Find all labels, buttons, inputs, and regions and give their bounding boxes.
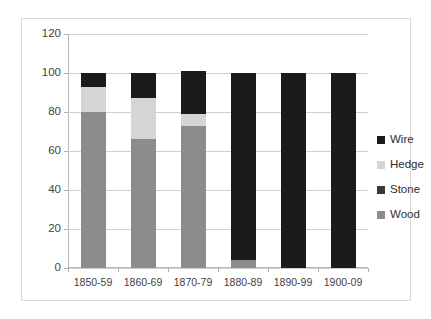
y-tick-mark (64, 190, 68, 191)
bar-segment-wood[interactable] (231, 260, 256, 268)
bar-stack[interactable] (281, 34, 306, 268)
y-gridline (68, 34, 368, 35)
x-axis-tick-label: 1890-99 (274, 277, 313, 288)
x-axis-tick-label: 1850-59 (74, 277, 113, 288)
legend-item-label: Wood (390, 209, 420, 221)
bar-segment-hedge[interactable] (181, 114, 206, 126)
y-tick-mark (64, 73, 68, 74)
bar-stack[interactable] (181, 34, 206, 268)
x-axis-tick-label: 1880-89 (224, 277, 263, 288)
y-gridline (68, 112, 368, 113)
bar-segment-wood[interactable] (181, 126, 206, 268)
legend-item-stone[interactable]: Stone (377, 177, 431, 202)
y-axis-tick-label: 60 (48, 145, 61, 157)
y-gridline (68, 151, 368, 152)
x-tick-mark (68, 268, 69, 272)
bar-segment-hedge[interactable] (81, 87, 106, 112)
x-tick-mark (318, 268, 319, 272)
legend-item-label: Stone (390, 184, 420, 196)
y-gridline (68, 190, 368, 191)
x-axis-tick-label: 1860-69 (124, 277, 163, 288)
plot-area: 0204060801001201850-591860-691870-791880… (68, 34, 368, 268)
legend-item-wire[interactable]: Wire (377, 127, 431, 152)
y-axis-tick-label: 40 (48, 184, 61, 196)
legend-swatch-icon (377, 136, 385, 144)
legend-swatch-icon (377, 186, 385, 194)
bar-segment-wire[interactable] (81, 73, 106, 87)
bar-segment-hedge[interactable] (131, 98, 156, 139)
y-tick-mark (64, 112, 68, 113)
x-axis-tick-label: 1870-79 (174, 277, 213, 288)
y-axis-tick-label: 0 (55, 262, 61, 274)
x-tick-mark (368, 268, 369, 272)
legend-item-hedge[interactable]: Hedge (377, 152, 431, 177)
x-axis-tick-label: 1900-09 (324, 277, 363, 288)
y-tick-mark (64, 229, 68, 230)
bar-stack[interactable] (331, 34, 356, 268)
y-tick-mark (64, 151, 68, 152)
x-tick-mark (218, 268, 219, 272)
bar-segment-wire[interactable] (331, 73, 356, 268)
plot-wrapper: 0204060801001201850-591860-691870-791880… (22, 19, 410, 300)
y-axis-tick-label: 80 (48, 106, 61, 118)
bar-stack[interactable] (131, 34, 156, 268)
bar-segment-wood[interactable] (81, 112, 106, 268)
bar-segment-wood[interactable] (131, 139, 156, 268)
legend-item-wood[interactable]: Wood (377, 202, 431, 227)
y-axis-tick-label: 100 (42, 67, 61, 79)
bar-segment-wire[interactable] (281, 73, 306, 268)
legend-item-label: Hedge (390, 159, 424, 171)
x-tick-mark (118, 268, 119, 272)
bar-stack[interactable] (81, 34, 106, 268)
x-tick-mark (168, 268, 169, 272)
bar-stack[interactable] (231, 34, 256, 268)
y-axis-tick-label: 120 (42, 28, 61, 40)
y-gridline (68, 229, 368, 230)
y-tick-mark (64, 34, 68, 35)
y-axis-tick-label: 20 (48, 223, 61, 235)
chart-legend: WireHedgeStoneWood (377, 127, 431, 227)
y-gridline (68, 73, 368, 74)
legend-swatch-icon (377, 211, 385, 219)
chart-frame: 0204060801001201850-591860-691870-791880… (21, 18, 411, 301)
legend-item-label: Wire (390, 134, 414, 146)
bar-segment-wire[interactable] (231, 73, 256, 260)
x-tick-mark (268, 268, 269, 272)
bar-segment-wire[interactable] (181, 71, 206, 114)
legend-swatch-icon (377, 161, 385, 169)
bar-segment-wire[interactable] (131, 73, 156, 98)
